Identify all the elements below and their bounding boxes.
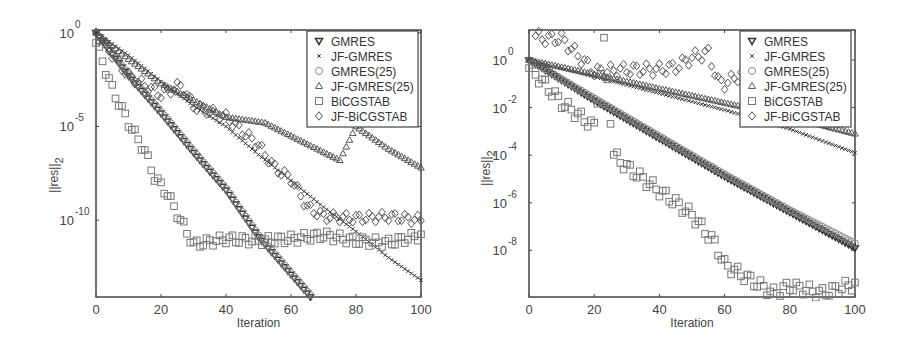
diamond-marker [689,54,696,62]
x-marker [325,208,329,212]
x-marker [224,125,228,129]
square-marker [806,281,813,288]
x-marker [729,110,733,114]
x-marker [808,134,812,138]
diamond-marker [725,79,732,87]
x-marker [390,258,394,262]
x-marker [335,215,339,219]
x-marker [827,142,831,146]
square-marker [171,203,178,210]
y-tick-exponent: 0 [508,46,514,57]
square-marker [122,110,129,117]
x-marker [403,267,407,271]
x-tick-label: 40 [652,302,666,317]
x-marker [345,222,349,226]
x-marker [791,128,795,132]
x-marker [690,100,694,104]
x-tick-label: 60 [284,302,298,317]
diamond-marker [578,60,585,68]
diamond-marker [555,38,562,46]
diamond-marker [708,62,715,70]
square-marker [148,167,155,174]
legend-label: BiCGSTAB [764,95,823,109]
x-marker [211,117,215,121]
x-marker [400,265,404,269]
chart-canvas: 020406080100Iteration10010-510-10||res||… [0,0,903,344]
y-tick-exponent: -5 [75,112,84,123]
diamond-marker [575,52,582,60]
diamond-marker [362,216,369,224]
x-tick-label: 20 [154,302,168,317]
x-marker [804,133,808,137]
x-tick-label: 100 [410,302,432,317]
diamond-marker [669,59,676,67]
diamond-marker [620,60,627,68]
x-marker [847,149,851,153]
legend-label: JF-GMRES [764,50,825,64]
y-tick-label: 10 [493,53,507,68]
y-axis-title: ||res||2 [479,150,497,185]
diamond-marker [718,76,725,84]
diamond-marker [650,71,657,79]
triangle-up-marker [349,130,356,136]
diamond-marker [297,192,304,200]
x-marker [393,260,397,264]
x-marker [707,104,711,108]
x-axis-title: Iteration [670,316,713,330]
y-tick-label: 10 [60,119,74,134]
diamond-marker [539,36,546,44]
x-tick-label: 80 [783,302,797,317]
x-marker [814,137,818,141]
y-axis-title: ||res||2 [47,157,65,192]
legend-label: JF-GMRES [331,50,392,64]
x-marker [830,143,834,147]
square-marker [601,34,608,41]
diamond-marker [721,85,728,93]
y-tick-exponent: -2 [508,94,517,105]
diamond-marker [239,131,246,139]
triangle-up-marker [343,143,350,149]
diamond-marker [666,61,673,69]
square-marker [99,58,106,65]
x-marker [658,92,662,96]
triangle-up-marker [340,150,347,156]
y-tick-exponent: -10 [75,206,90,217]
legend-label: GMRES(25) [331,65,396,79]
square-marker [135,136,142,143]
legend-label: GMRES(25) [764,65,829,79]
x-axis-title: Iteration [237,316,280,330]
x-marker [720,107,724,111]
x-marker [694,101,698,105]
diamond-marker [532,32,539,40]
x-marker [840,146,844,150]
legend-label: JF-GMRES(25) [331,80,414,94]
legend: GMRESJF-GMRESGMRES(25)JF-GMRES(25)BiCGST… [307,31,418,127]
legend-label: JF-BiCGSTAB [764,110,840,124]
legend-label: JF-GMRES(25) [764,80,847,94]
diamond-marker [617,64,624,72]
x-marker [406,269,410,273]
y-tick-label: 10 [60,26,74,41]
square-marker [617,160,624,167]
x-marker [244,142,248,146]
x-marker [661,92,665,96]
x-marker [221,123,225,127]
x-marker [710,105,714,109]
square-marker [112,95,119,102]
x-marker [801,132,805,136]
x-marker [703,103,707,107]
x-marker [821,139,825,143]
x-marker [397,263,401,267]
legend: GMRESJF-GMRESGMRES(25)JF-GMRES(25)BiCGST… [740,31,851,127]
x-tick-label: 40 [219,302,233,317]
x-marker [850,150,854,154]
y-tick-label: 10 [60,213,74,228]
diamond-marker [624,69,631,77]
x-marker [834,144,838,148]
x-tick-label: 0 [525,302,532,317]
diamond-marker [594,63,601,71]
x-marker [684,98,688,102]
diamond-marker [679,54,686,62]
square-marker [689,211,696,218]
x-marker [687,99,691,103]
